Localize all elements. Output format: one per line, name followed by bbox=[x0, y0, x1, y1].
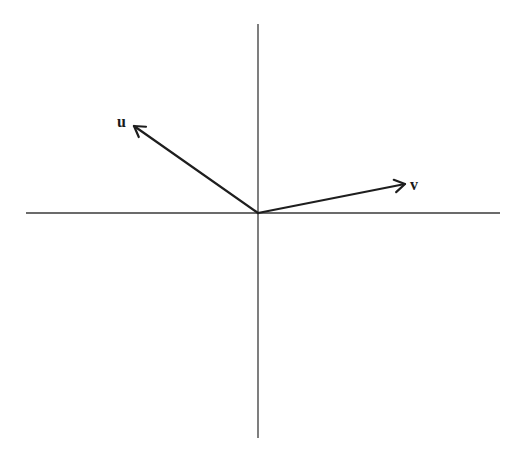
vector-u-label: u bbox=[117, 113, 126, 130]
vector-u-shaft bbox=[134, 126, 258, 213]
vector-u: u bbox=[117, 113, 258, 213]
vector-diagram: u v bbox=[0, 0, 520, 459]
vector-v: v bbox=[258, 176, 418, 213]
vector-v-label: v bbox=[410, 176, 418, 193]
vector-v-shaft bbox=[258, 184, 405, 213]
